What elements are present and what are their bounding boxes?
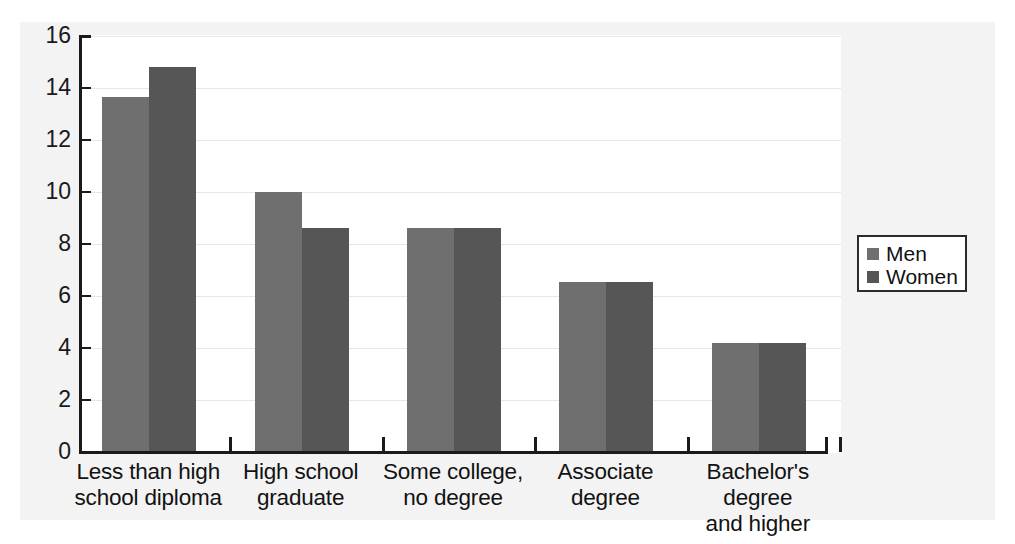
y-tick-label: 0	[11, 440, 71, 463]
y-tick-label: 10	[11, 180, 71, 203]
legend-label-women: Women	[886, 266, 958, 287]
x-axis-label-1: High schoolgraduate	[224, 459, 376, 511]
bar-men-0	[102, 97, 149, 452]
bar-women-2	[454, 228, 501, 452]
y-tick-label: 8	[11, 232, 71, 255]
x-axis-label-line: Associate	[529, 459, 681, 485]
bar-men-1	[255, 192, 302, 452]
y-gridline	[91, 140, 841, 141]
x-tick-mark	[534, 437, 537, 452]
bar-men-3	[559, 282, 606, 452]
legend-item-men: Men	[867, 242, 965, 265]
x-axis-label-0: Less than highschool diploma	[72, 459, 224, 511]
x-axis-label-4: Bachelor's degreeand higher	[682, 459, 834, 537]
bar-women-3	[606, 282, 653, 452]
x-tick-mark	[382, 437, 385, 452]
y-axis-line	[79, 35, 82, 454]
y-tick-label: 12	[11, 128, 71, 151]
y-gridline	[91, 36, 841, 37]
y-tick-label: 16	[11, 24, 71, 47]
legend-label-men: Men	[886, 243, 927, 264]
legend-swatch-women	[867, 271, 879, 283]
chart-legend: MenWomen	[857, 235, 967, 292]
y-tick-label: 14	[11, 76, 71, 99]
x-axis-label-line: school diploma	[72, 485, 224, 511]
bar-women-4	[759, 343, 806, 452]
x-axis-label-line: Bachelor's degree	[682, 459, 834, 511]
x-axis-label-2: Some college,no degree	[377, 459, 529, 511]
x-axis-label-line: Some college,	[377, 459, 529, 485]
x-tick-mark	[687, 437, 690, 452]
bar-chart-figure: 0246810121416 Less than highschool diplo…	[0, 0, 1015, 544]
x-axis-label-line: Less than high	[72, 459, 224, 485]
x-axis-label-3: Associatedegree	[529, 459, 681, 511]
x-axis-label-line: and higher	[682, 511, 834, 537]
legend-item-women: Women	[867, 265, 965, 288]
x-tick-mark	[839, 437, 842, 452]
bar-women-1	[302, 228, 349, 452]
y-gridline	[91, 88, 841, 89]
y-tick-label: 2	[11, 388, 71, 411]
bar-women-0	[149, 67, 196, 452]
y-axis-top-cap	[79, 35, 91, 38]
y-tick-label: 6	[11, 284, 71, 307]
x-axis-label-line: degree	[529, 485, 681, 511]
y-tick-label: 4	[11, 336, 71, 359]
x-axis-end-cap	[825, 437, 828, 454]
x-axis-label-line: High school	[224, 459, 376, 485]
bar-men-2	[407, 228, 454, 452]
x-axis-label-line: graduate	[224, 485, 376, 511]
y-gridline	[91, 192, 841, 193]
x-axis-line	[79, 451, 828, 454]
x-tick-mark	[229, 437, 232, 452]
legend-swatch-men	[867, 248, 879, 260]
x-axis-label-line: no degree	[377, 485, 529, 511]
bar-men-4	[712, 343, 759, 452]
